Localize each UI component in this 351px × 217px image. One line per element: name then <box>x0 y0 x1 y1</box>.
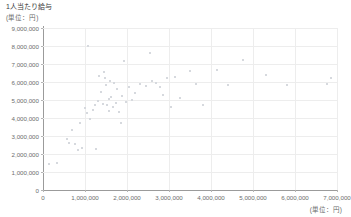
scatter-point <box>227 84 229 86</box>
scatter-point <box>86 112 88 114</box>
y-axis-tick-label: 8,000,000 <box>1 43 39 50</box>
gridline-vertical <box>295 28 296 190</box>
scatter-point <box>189 70 191 72</box>
scatter-point <box>102 103 104 105</box>
scatter-point <box>242 59 244 61</box>
y-axis-tick-label: 9,000,000 <box>1 25 39 32</box>
scatter-point <box>108 110 110 112</box>
x-axis-unit-label: (単位：円) <box>310 206 342 214</box>
scatter-point <box>145 85 147 87</box>
scatter-point <box>121 95 123 97</box>
scatter-point <box>159 86 161 88</box>
gridline-horizontal <box>43 154 337 155</box>
scatter-point <box>87 45 89 47</box>
x-axis-tick-mark <box>295 190 296 192</box>
scatter-point <box>105 84 107 86</box>
scatter-point <box>97 100 99 102</box>
gridline-horizontal <box>43 28 337 29</box>
scatter-point <box>134 92 136 94</box>
y-axis-tick-label: 3,000,000 <box>1 133 39 140</box>
scatter-point <box>71 129 73 131</box>
gridline-horizontal <box>43 64 337 65</box>
x-axis-tick-label: 0 <box>41 194 44 202</box>
gridline-horizontal <box>43 118 337 119</box>
scatter-point <box>108 98 110 100</box>
scatter-point <box>68 142 70 144</box>
y-axis-tick-label: 1,000,000 <box>1 169 39 176</box>
x-axis-tick-label: 3,000,000 <box>155 194 183 202</box>
scatter-point <box>162 94 164 96</box>
gridline-vertical <box>337 28 338 190</box>
scatter-point <box>128 86 130 88</box>
scatter-point <box>216 69 218 71</box>
x-axis-tick-label: 2,000,000 <box>113 194 141 202</box>
x-axis-tick-mark <box>169 190 170 192</box>
x-axis-tick-label: 5,000,000 <box>239 194 267 202</box>
x-axis-line <box>43 190 338 191</box>
scatter-point <box>286 84 288 86</box>
scatter-point <box>118 111 120 113</box>
scatter-point <box>131 99 133 101</box>
scatter-point <box>109 80 111 82</box>
y-axis-tick-label: 6,000,000 <box>1 79 39 86</box>
scatter-point <box>151 80 153 82</box>
scatter-point <box>116 88 118 90</box>
scatter-point <box>74 143 76 145</box>
scatter-point <box>125 101 127 103</box>
scatter-point <box>170 106 172 108</box>
scatter-point <box>330 77 332 79</box>
scatter-point <box>265 74 267 76</box>
scatter-point <box>139 83 141 85</box>
scatter-point <box>112 106 114 108</box>
scatter-point <box>79 122 81 124</box>
scatter-point <box>179 97 181 99</box>
x-axis-tick-mark <box>85 190 86 192</box>
scatter-point <box>98 75 100 77</box>
scatter-point <box>100 91 102 93</box>
gridline-horizontal <box>43 100 337 101</box>
gridline-horizontal <box>43 136 337 137</box>
scatter-point <box>92 109 94 111</box>
scatter-point <box>66 138 68 140</box>
y-axis-tick-label: 2,000,000 <box>1 151 39 158</box>
scatter-point <box>81 147 83 149</box>
x-axis-tick-mark <box>337 190 338 192</box>
scatter-point <box>202 104 204 106</box>
scatter-point <box>110 96 112 98</box>
x-axis-tick-label: 6,000,000 <box>281 194 309 202</box>
x-axis-tick-mark <box>253 190 254 192</box>
scatter-point <box>174 76 176 78</box>
scatter-point <box>120 122 122 124</box>
scatter-point <box>103 71 105 73</box>
scatter-point <box>123 60 125 62</box>
gridline-horizontal <box>43 82 337 83</box>
x-axis-tick-label: 1,000,000 <box>71 194 99 202</box>
x-axis-tick-mark <box>127 190 128 192</box>
gridline-vertical <box>211 28 212 190</box>
scatter-point <box>149 52 151 54</box>
scatter-point <box>195 83 197 85</box>
y-axis-tick-label: 4,000,000 <box>1 115 39 122</box>
scatter-point <box>95 148 97 150</box>
scatter-point <box>48 163 50 165</box>
scatter-point <box>155 82 157 84</box>
scatter-point <box>113 82 115 84</box>
x-axis-tick-mark <box>211 190 212 192</box>
scatter-point <box>89 118 91 120</box>
scatter-point <box>94 104 96 106</box>
y-axis-tick-label: 5,000,000 <box>1 97 39 104</box>
gridline-vertical <box>253 28 254 190</box>
scatter-point <box>77 149 79 151</box>
x-axis-tick-label: 4,000,000 <box>197 194 225 202</box>
gridline-horizontal <box>43 172 337 173</box>
gridline-vertical <box>127 28 128 190</box>
scatter-point <box>56 162 58 164</box>
x-axis-tick-mark <box>43 190 44 192</box>
scatter-point <box>106 104 108 106</box>
scatter-plot-area <box>43 28 337 190</box>
scatter-point <box>115 102 117 104</box>
scatter-point <box>166 77 168 79</box>
x-axis-tick-label: 7,000,000 <box>323 194 351 202</box>
scatter-point <box>84 107 86 109</box>
